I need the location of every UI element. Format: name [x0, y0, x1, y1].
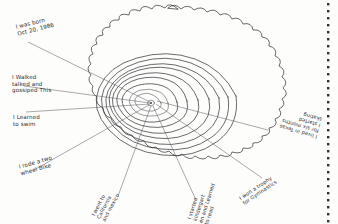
leader-swim [26, 104, 150, 112]
growth-rings [96, 54, 237, 156]
leader-gymnastics [156, 104, 262, 178]
worksheet-page: I was born Oct 20, 1986 I Walked talked … [0, 0, 338, 224]
caption-walked: I Walked talked and gossiped This [12, 74, 51, 94]
margin-rule [327, 3, 329, 222]
leader-kindergarten [153, 106, 196, 200]
caption-swim: I Learned to swim [13, 114, 40, 127]
pith-center-dot [150, 102, 152, 104]
